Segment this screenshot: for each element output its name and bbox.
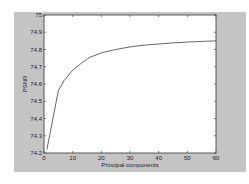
plot-area [44, 15, 216, 153]
x-tick-label: 30 [127, 155, 134, 161]
y-tick-label: 74.4 [30, 116, 42, 122]
y-axis-label: PSNR [22, 75, 28, 92]
x-tick-label: 20 [98, 155, 105, 161]
y-tick-label: 74.3 [30, 133, 42, 139]
line-chart: 010203040506074.274.374.474.574.674.774.… [14, 12, 246, 172]
y-tick-label: 74.8 [30, 47, 42, 53]
x-axis-label: Principal components [101, 162, 158, 168]
figure-window: 010203040506074.274.374.474.574.674.774.… [14, 12, 246, 172]
x-tick-label: 10 [69, 155, 76, 161]
y-tick-label: 75 [35, 12, 42, 18]
x-tick-label: 50 [184, 155, 191, 161]
y-tick-label: 74.7 [30, 64, 42, 70]
x-tick-label: 40 [155, 155, 162, 161]
y-tick-label: 74.9 [30, 29, 42, 35]
y-tick-label: 74.2 [30, 150, 42, 156]
x-tick-label: 0 [42, 155, 46, 161]
y-tick-label: 74.5 [30, 98, 42, 104]
y-tick-label: 74.6 [30, 81, 42, 87]
x-tick-label: 60 [213, 155, 220, 161]
